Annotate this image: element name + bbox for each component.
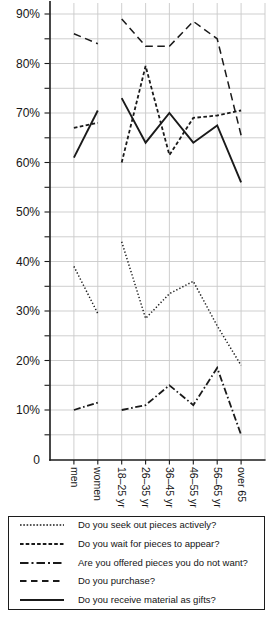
y-axis-label: 90%	[16, 7, 40, 21]
legend-label: Are you offered pieces you do not want?	[78, 558, 248, 568]
series-line-long-dash	[122, 19, 241, 135]
y-axis-label: 10%	[16, 403, 40, 417]
legend-item: Do you receive material as gifts?	[19, 595, 260, 605]
legend-item: Do you purchase?	[19, 576, 260, 586]
series-line-dash-dot	[122, 368, 241, 435]
legend-label: Do you receive material as gifts?	[78, 595, 216, 605]
x-axis-label: 36–45 yr	[164, 467, 176, 508]
legend-label: Do you seek out pieces actively?	[78, 520, 216, 530]
series-line-dotted	[74, 266, 98, 313]
line-chart: 010%20%30%40%50%60%70%80%90%menwomen18–2…	[0, 0, 271, 512]
y-axis-label: 50%	[16, 205, 40, 219]
legend-item: Do you wait for pieces to appear?	[19, 539, 260, 549]
y-axis-label: 40%	[16, 255, 40, 269]
series-line-short-dash	[122, 66, 241, 163]
x-axis-label: 56–65 yr	[212, 467, 224, 508]
legend-sample-long-dash-line-icon	[19, 576, 65, 586]
legend-item: Do you seek out pieces actively?	[19, 520, 260, 530]
series-line-solid	[74, 111, 98, 158]
legend-label: Do you wait for pieces to appear?	[78, 539, 220, 549]
x-axis-label: 18–25 yr	[116, 467, 128, 508]
legend-sample-dotted-line-icon	[19, 520, 65, 530]
y-axis-label: 0	[33, 453, 40, 467]
x-axis-label: women	[92, 466, 104, 501]
y-axis-label: 30%	[16, 304, 40, 318]
figure: 010%20%30%40%50%60%70%80%90%menwomen18–2…	[0, 0, 271, 631]
x-axis-label: men	[69, 467, 81, 488]
legend-sample-dash-dot-line-icon	[19, 558, 65, 568]
y-axis-label: 80%	[16, 57, 40, 71]
y-axis-label: 20%	[16, 354, 40, 368]
y-axis-label: 60%	[16, 156, 40, 170]
legend-sample-solid-line-icon	[19, 595, 65, 605]
series-line-dash-dot	[74, 403, 98, 410]
x-axis-label: 26–35 yr	[140, 467, 152, 508]
series-line-dotted	[122, 242, 241, 366]
legend-label: Do you purchase?	[78, 576, 155, 586]
x-axis-label: 46–55 yr	[188, 467, 200, 508]
series-line-short-dash	[74, 123, 98, 128]
series-line-solid	[122, 98, 241, 182]
legend-item: Are you offered pieces you do not want?	[19, 558, 260, 568]
legend-sample-short-dash-line-icon	[19, 539, 65, 549]
x-axis-label: over 65	[236, 467, 248, 502]
y-axis-label: 70%	[16, 106, 40, 120]
legend: Do you seek out pieces actively?Do you w…	[8, 516, 265, 610]
